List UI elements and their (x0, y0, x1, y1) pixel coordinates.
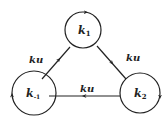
state-diagram: k1 k-1 k2 ku ku ku (0, 0, 166, 128)
edge-label: ku (80, 83, 94, 94)
node-label-k1: k1 (78, 24, 91, 38)
edge-label: ku (126, 52, 140, 63)
edge-k2-to-k-1: ku (49, 83, 120, 96)
edge-label: ku (29, 54, 43, 65)
node-k-minus-1: k-1 (12, 71, 56, 115)
node-k1: k1 (65, 12, 101, 48)
edge-k-minus-1-to-k1: ku (29, 47, 70, 79)
node-label-k2: k2 (134, 87, 147, 101)
node-label-k-minus-1: k-1 (26, 87, 40, 100)
